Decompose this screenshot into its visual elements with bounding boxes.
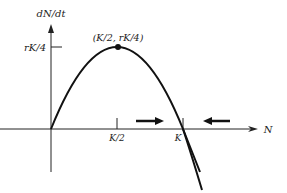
x-tick-label-k: K (174, 133, 183, 143)
y-axis-label: dN/dt (37, 8, 67, 19)
x-axis-label: N (263, 124, 274, 135)
growth-rate-curve-tail (183, 129, 202, 190)
peak-point (115, 44, 121, 50)
peak-annotation: (K/2, rK/4) (93, 32, 144, 43)
y-tick-label-rk4: rK/4 (24, 42, 46, 53)
right-flow-arrowhead (155, 117, 164, 125)
x-tick-label-k2: K/2 (108, 133, 125, 143)
left-flow-arrowhead (203, 117, 212, 125)
y-axis-arrowhead (48, 24, 54, 33)
logistic-growth-chart: dN/dt N rK/4 K/2 K (K/2, rK/4) (0, 0, 287, 193)
growth-rate-curve (51, 47, 200, 172)
